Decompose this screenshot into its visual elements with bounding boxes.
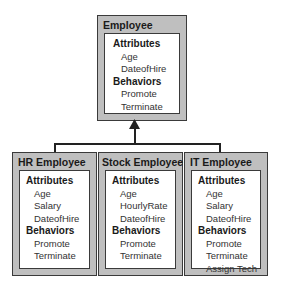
behavior: Promote	[112, 238, 175, 251]
attributes-heading: Attributes	[198, 175, 260, 188]
class-title: Stock Employee	[99, 153, 182, 169]
attributes-heading: Attributes	[26, 175, 89, 188]
behavior: Promote	[113, 88, 179, 101]
class-body: Attributes Age Salary DateofHire Behavio…	[19, 170, 90, 269]
behavior: Terminate	[112, 250, 175, 263]
class-title: Employee	[98, 16, 186, 32]
attribute: DateofHire	[112, 213, 175, 226]
attribute: Age	[198, 188, 260, 201]
attributes-heading: Attributes	[113, 38, 179, 51]
behaviors-heading: Behaviors	[26, 225, 89, 238]
attribute: Age	[26, 188, 89, 201]
attribute: Salary	[198, 200, 260, 213]
class-title: HR Employee	[13, 153, 96, 169]
class-employee: Employee Attributes Age DateofHire Behav…	[97, 15, 187, 121]
behavior: Terminate	[198, 250, 260, 263]
class-title: IT Employee	[185, 153, 267, 169]
attribute: Age	[113, 51, 179, 64]
class-body: Attributes Age DateofHire Behaviors Prom…	[104, 33, 180, 114]
arrowhead-icon	[129, 119, 140, 129]
attribute: DateofHire	[198, 213, 260, 226]
horizontal-bus	[54, 143, 220, 145]
class-it-employee: IT Employee Attributes Age Salary Dateof…	[184, 152, 268, 276]
behaviors-heading: Behaviors	[113, 76, 179, 89]
behaviors-heading: Behaviors	[112, 225, 175, 238]
behavior: Terminate	[26, 250, 89, 263]
behavior: Terminate	[113, 101, 179, 114]
behavior: Promote	[26, 238, 89, 251]
attribute: HourlyRate	[112, 200, 175, 213]
class-body: Attributes Age Salary DateofHire Behavio…	[191, 170, 261, 269]
attribute: DateofHire	[26, 213, 89, 226]
behaviors-heading: Behaviors	[198, 225, 260, 238]
attributes-heading: Attributes	[112, 175, 175, 188]
behavior: Promote	[198, 238, 260, 251]
attribute: Salary	[26, 200, 89, 213]
class-body: Attributes Age HourlyRate DateofHire Beh…	[105, 170, 176, 269]
class-hr-employee: HR Employee Attributes Age Salary Dateof…	[12, 152, 97, 276]
class-stock-employee: Stock Employee Attributes Age HourlyRate…	[98, 152, 183, 276]
attribute: DateofHire	[113, 63, 179, 76]
behavior: Assign Tech	[198, 263, 260, 276]
attribute: Age	[112, 188, 175, 201]
